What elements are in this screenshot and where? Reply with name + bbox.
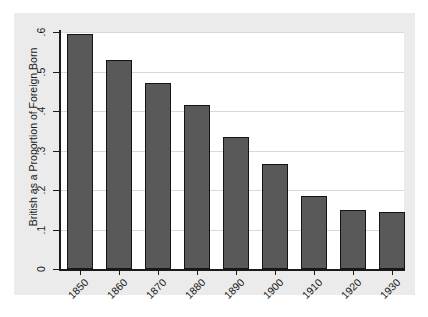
y-tick-1: [53, 230, 59, 231]
bar-1920: [340, 210, 366, 269]
gridline-y-6: [60, 32, 404, 33]
bar-1900: [262, 164, 288, 269]
chart-panel: .6 .5 .4 .3 .2 .1 0 British as a Proport…: [14, 13, 415, 295]
x-tick-1900: [275, 271, 276, 275]
x-tick-1890: [236, 271, 237, 275]
bar-1930: [379, 212, 405, 269]
x-tick-label-1860: 1860: [100, 276, 130, 306]
y-tick-4: [53, 111, 59, 112]
y-tick-5: [53, 72, 59, 73]
x-tick-1870: [158, 271, 159, 275]
x-tick-1860: [119, 271, 120, 275]
y-tick-0: [53, 269, 59, 270]
x-tick-label-1900: 1900: [256, 276, 286, 306]
bar-1910: [301, 196, 327, 269]
x-tick-label-1930: 1930: [373, 276, 403, 306]
x-tick-label-1910: 1910: [295, 276, 325, 306]
y-tick-label-0: 0: [34, 262, 48, 276]
x-tick-1880: [197, 271, 198, 275]
y-tick-label-0-wrap: 0: [34, 262, 48, 276]
chart-figure: .6 .5 .4 .3 .2 .1 0 British as a Proport…: [0, 0, 428, 317]
x-tick-label-1880: 1880: [178, 276, 208, 306]
x-tick-label-1890: 1890: [217, 276, 247, 306]
y-axis-line: [59, 30, 61, 271]
x-tick-label-1920: 1920: [334, 276, 364, 306]
y-axis-title: British as a Proportion of Foreign Born: [27, 22, 39, 252]
bar-1890: [223, 137, 249, 269]
bar-1870: [145, 83, 171, 269]
y-tick-3: [53, 151, 59, 152]
x-tick-1920: [353, 271, 354, 275]
x-tick-label-1870: 1870: [139, 276, 169, 306]
x-tick-1910: [314, 271, 315, 275]
bar-1880: [184, 105, 210, 269]
bar-1850: [67, 34, 93, 269]
y-tick-2: [53, 190, 59, 191]
y-tick-6: [53, 32, 59, 33]
x-tick-1930: [392, 271, 393, 275]
bar-1860: [106, 60, 132, 269]
x-tick-label-1850: 1850: [61, 276, 91, 306]
x-tick-1850: [80, 271, 81, 275]
